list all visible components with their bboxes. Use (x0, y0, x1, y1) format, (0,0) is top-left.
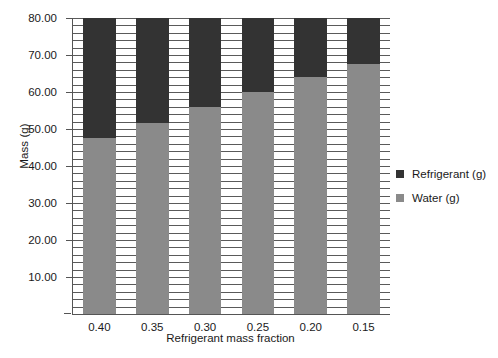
bar-segment[interactable] (189, 18, 222, 107)
bar-group[interactable] (189, 18, 222, 314)
bar-group[interactable] (347, 18, 380, 314)
x-axis-title: Refrigerant mass fraction (72, 332, 389, 344)
gridline (73, 129, 390, 130)
y-axis-tick (66, 166, 73, 167)
gridline (73, 277, 390, 278)
plot-inner (73, 18, 390, 314)
gridline (73, 70, 390, 71)
bar-segment[interactable] (189, 107, 222, 314)
bar-group[interactable] (242, 18, 275, 314)
bar-segment[interactable] (242, 92, 275, 314)
y-axis-tick (66, 92, 73, 93)
bar-segment[interactable] (242, 18, 275, 92)
plot-area: 10.0020.0030.0040.0050.0060.0070.0080.00… (72, 18, 390, 315)
y-axis-tick-label: 30.00 (28, 197, 57, 209)
gridline (73, 299, 390, 300)
gridline (73, 136, 390, 137)
gridline (73, 48, 390, 49)
bar-segment[interactable] (136, 123, 169, 314)
y-axis-tick-label: 10.00 (28, 271, 57, 283)
bar-segment[interactable] (347, 18, 380, 64)
legend-label: Water (g) (412, 192, 460, 204)
bar-group[interactable] (294, 18, 327, 314)
y-axis-tick-label: 80.00 (28, 12, 57, 24)
gridline (73, 40, 390, 41)
gridline (73, 18, 390, 19)
gridline (73, 188, 390, 189)
gridline (73, 99, 390, 100)
legend-item[interactable]: Water (g) (396, 192, 486, 204)
gridline (73, 240, 390, 241)
bar-group[interactable] (136, 18, 169, 314)
gridline (73, 270, 390, 271)
gridline (73, 173, 390, 174)
gridline (73, 151, 390, 152)
y-axis-tick (66, 55, 73, 56)
y-axis-tick-label: 40.00 (28, 160, 57, 172)
gridline (73, 218, 390, 219)
bar-group[interactable] (83, 18, 116, 314)
gridline (73, 159, 390, 160)
y-axis-tick (66, 203, 73, 204)
bar-segment[interactable] (347, 64, 380, 314)
gridline (73, 62, 390, 63)
gridline (73, 233, 390, 234)
gridline (73, 144, 390, 145)
legend-item[interactable]: Refrigerant (g) (396, 168, 486, 180)
origin-tick (64, 313, 71, 314)
gridline (73, 255, 390, 256)
gridline (73, 85, 390, 86)
legend-swatch-icon (396, 170, 404, 178)
bar-segment[interactable] (294, 18, 327, 77)
bar-segment[interactable] (136, 18, 169, 123)
bar-segment[interactable] (83, 138, 116, 314)
y-axis-tick (66, 277, 73, 278)
gridline (73, 77, 390, 78)
legend-swatch-icon (396, 194, 404, 202)
gridline (73, 114, 390, 115)
legend: Refrigerant (g)Water (g) (396, 168, 486, 216)
gridline (73, 307, 390, 308)
bar-segment[interactable] (83, 18, 116, 138)
gridline (73, 247, 390, 248)
y-axis-tick-label: 60.00 (28, 86, 57, 98)
y-axis-tick-label: 50.00 (28, 123, 57, 135)
gridline (73, 292, 390, 293)
gridline (73, 25, 390, 26)
gridline (73, 33, 390, 34)
legend-label: Refrigerant (g) (412, 168, 486, 180)
gridline (73, 284, 390, 285)
gridline (73, 166, 390, 167)
gridline (73, 196, 390, 197)
gridline (73, 55, 390, 56)
stacked-bar-chart: Mass (g) 10.0020.0030.0040.0050.0060.007… (0, 0, 498, 358)
y-axis-tick (66, 129, 73, 130)
gridline (73, 107, 390, 108)
gridline (73, 181, 390, 182)
gridline (73, 203, 390, 204)
y-axis-tick (66, 240, 73, 241)
bar-segment[interactable] (294, 77, 327, 314)
gridline (73, 262, 390, 263)
y-axis-tick-label: 70.00 (28, 49, 57, 61)
gridline (73, 122, 390, 123)
y-axis-tick (66, 18, 73, 19)
gridline (73, 92, 390, 93)
gridline (73, 225, 390, 226)
y-axis-tick-label: 20.00 (28, 234, 57, 246)
gridline (73, 210, 390, 211)
